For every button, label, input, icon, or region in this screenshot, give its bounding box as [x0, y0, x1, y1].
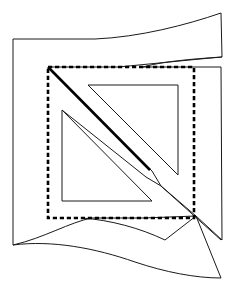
line-art-diagram	[0, 0, 233, 284]
figure-root	[0, 0, 233, 284]
canvas-background	[0, 0, 233, 284]
